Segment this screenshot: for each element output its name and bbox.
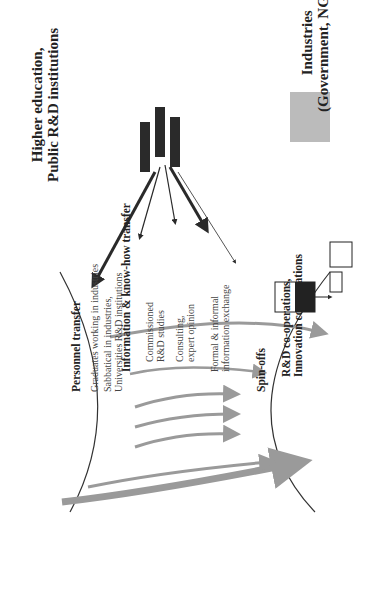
people-group-icon (140, 107, 180, 172)
section-title-spinoffs: Spin-offs (255, 348, 267, 392)
section-title-cooperations: R&D co-operations,Innovation co-operatio… (280, 254, 304, 377)
label-formal-informal: Formal & informalinformation exchange (210, 285, 231, 372)
right-entity-label: Industries(Government, NGOs) (300, 0, 332, 112)
label-consulting: Consulting,expert opinion (175, 304, 196, 362)
left-entity-label: Higher education,Public R&D institutions (30, 28, 62, 182)
diagram-canvas: Higher education,Public R&D institutions… (0, 0, 377, 612)
graduates-arrow (62, 464, 292, 502)
phone-icon (330, 272, 342, 292)
spinoff-arrow (130, 367, 260, 374)
label-sabbatical: Sabbatical in industries,Universities R&… (103, 273, 124, 392)
label-commissioned: CommissionedR&D studies (145, 302, 166, 362)
computer-icon (330, 242, 352, 267)
section-title-personnel: Personnel transfer (70, 301, 82, 392)
label-graduates: Graduates working in industries (90, 264, 101, 392)
